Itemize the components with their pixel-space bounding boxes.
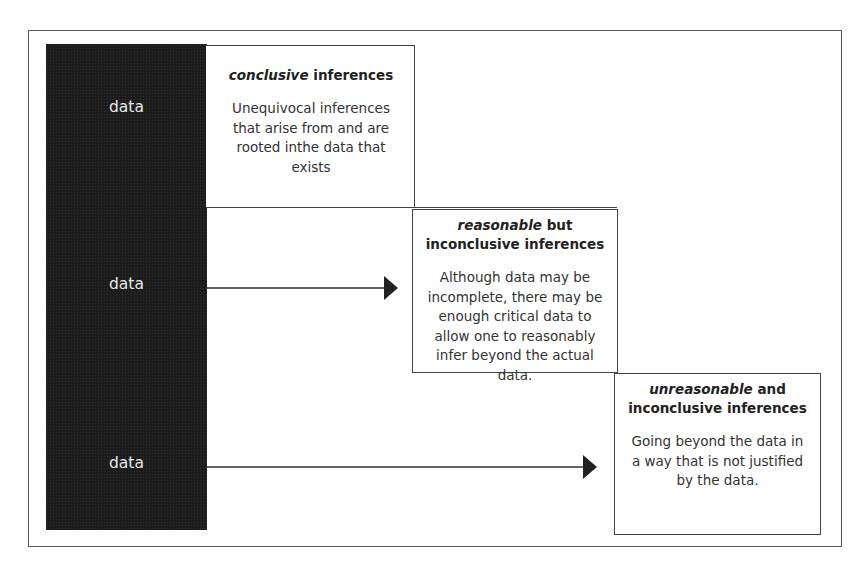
arrows-layer: [0, 0, 864, 577]
arrow-head-1: [384, 276, 398, 300]
arrow-head-2: [583, 455, 597, 479]
